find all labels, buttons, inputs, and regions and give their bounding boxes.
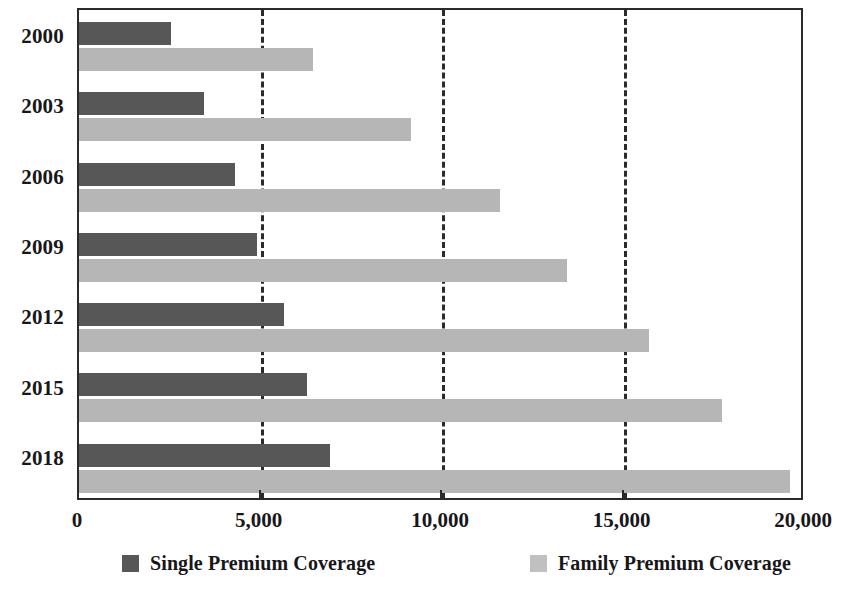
x-axis-tick-mark-5000 xyxy=(259,490,261,500)
plot-area xyxy=(79,10,801,498)
y-axis-tick-2009: 2009 xyxy=(0,234,64,259)
x-axis-tick-mark-10000 xyxy=(440,490,442,500)
x-axis-tick-mark-15000 xyxy=(622,490,624,500)
bar-group-2000 xyxy=(79,22,801,73)
legend-entry-single[interactable]: Single Premium Coverage xyxy=(122,552,375,575)
x-axis-tick-label-15000: 15,000 xyxy=(593,508,651,533)
bar-group-2018 xyxy=(79,444,801,495)
bar-family-2012 xyxy=(79,329,649,352)
bar-family-2015 xyxy=(79,399,722,422)
bar-single-2015 xyxy=(79,373,307,396)
legend-label-family: Family Premium Coverage xyxy=(558,552,791,575)
bar-single-2009 xyxy=(79,233,257,256)
bar-single-2000 xyxy=(79,22,171,45)
bar-group-2009 xyxy=(79,233,801,284)
x-axis-tick-label-10000: 10,000 xyxy=(411,508,469,533)
bar-single-2006 xyxy=(79,163,235,186)
bar-group-2003 xyxy=(79,92,801,143)
y-axis-tick-2000: 2000 xyxy=(0,24,64,49)
legend-label-single: Single Premium Coverage xyxy=(150,552,375,575)
plot-frame xyxy=(77,8,803,500)
bar-group-2012 xyxy=(79,303,801,354)
bar-group-2015 xyxy=(79,373,801,424)
premium-coverage-bar-chart: 2000200320062009201220152018 05,00010,00… xyxy=(0,0,843,593)
bar-family-2018 xyxy=(79,470,790,493)
bar-group-2006 xyxy=(79,163,801,214)
x-axis-tick-label-0: 0 xyxy=(72,508,83,533)
x-axis-tick-label-20000: 20,000 xyxy=(774,508,832,533)
legend-swatch-family-icon xyxy=(530,555,547,572)
bar-family-2009 xyxy=(79,259,567,282)
y-axis-tick-2003: 2003 xyxy=(0,94,64,119)
y-axis-tick-2015: 2015 xyxy=(0,375,64,400)
legend-swatch-single-icon xyxy=(122,555,139,572)
legend-entry-family[interactable]: Family Premium Coverage xyxy=(530,552,791,575)
x-axis-tick-labels: 05,00010,00015,00020,000 xyxy=(0,508,843,542)
y-axis-tick-2012: 2012 xyxy=(0,305,64,330)
x-axis-tick-label-5000: 5,000 xyxy=(235,508,282,533)
chart-legend: Single Premium CoverageFamily Premium Co… xyxy=(0,552,843,586)
y-axis-tick-2018: 2018 xyxy=(0,445,64,470)
y-axis-year-labels: 2000200320062009201220152018 xyxy=(0,8,72,500)
bar-family-2003 xyxy=(79,118,411,141)
bar-single-2012 xyxy=(79,303,284,326)
bar-family-2000 xyxy=(79,48,313,71)
bar-single-2003 xyxy=(79,92,204,115)
bar-single-2018 xyxy=(79,444,330,467)
y-axis-tick-2006: 2006 xyxy=(0,164,64,189)
bar-family-2006 xyxy=(79,189,500,212)
